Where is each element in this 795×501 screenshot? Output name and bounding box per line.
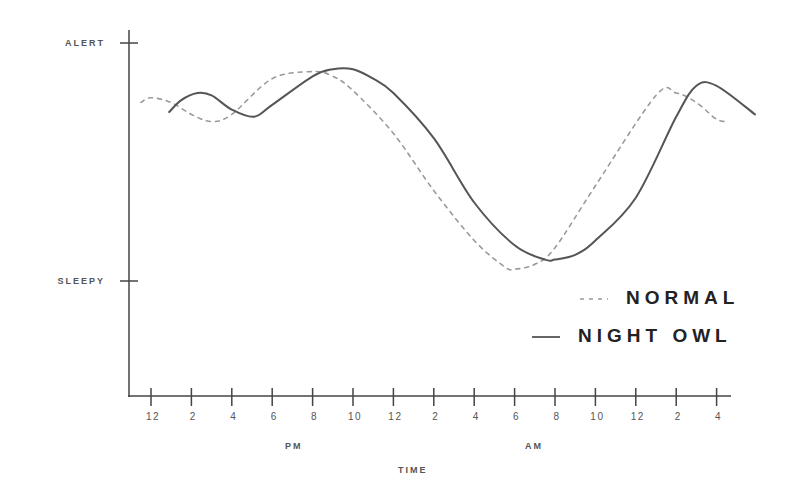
series-line-normal xyxy=(141,72,729,270)
x-tick-label: 4 xyxy=(473,411,480,422)
y-label-sleepy: SLEEPY xyxy=(5,276,105,286)
x-tick-label: 12 xyxy=(631,411,645,422)
x-tick-label: 8 xyxy=(311,411,318,422)
y-label-alert: ALERT xyxy=(5,38,105,48)
x-ticks xyxy=(151,388,717,406)
x-axis xyxy=(128,388,731,406)
series-layer xyxy=(141,68,755,270)
legend-label-normal: NORMAL xyxy=(626,287,739,309)
x-tick-label: 8 xyxy=(553,411,560,422)
x-tick-label: 6 xyxy=(513,411,520,422)
legend-label-night-owl: NIGHT OWL xyxy=(578,325,732,347)
x-tick-label: 2 xyxy=(432,411,439,422)
x-axis-title: TIME xyxy=(398,465,428,475)
x-tick-label: 6 xyxy=(271,411,278,422)
x-group-label-am: AM xyxy=(525,441,543,451)
x-tick-label: 2 xyxy=(190,411,197,422)
x-tick-label: 10 xyxy=(348,411,362,422)
x-tick-label: 4 xyxy=(230,411,237,422)
x-tick-label: 10 xyxy=(590,411,604,422)
x-tick-label: 2 xyxy=(675,411,682,422)
x-tick-label: 12 xyxy=(146,411,160,422)
x-group-label-pm: PM xyxy=(285,441,303,451)
series-line-night-owl xyxy=(169,68,755,261)
chart-canvas xyxy=(0,0,795,501)
x-tick-label: 12 xyxy=(388,411,402,422)
x-tick-label: 4 xyxy=(715,411,722,422)
y-axis xyxy=(120,30,138,397)
